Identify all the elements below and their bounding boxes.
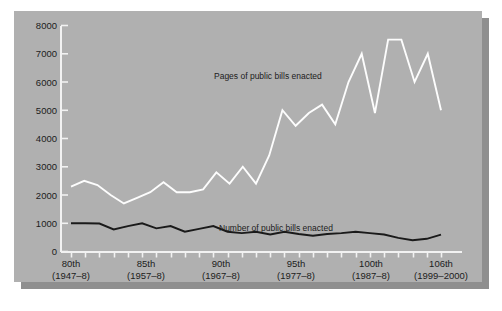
y-tick-label: 5000 [36,105,57,116]
x-tick-label-congress: 100th [359,258,383,269]
y-tick-label: 7000 [36,48,57,59]
line-chart-plot: 0 1000 2000 3000 4000 5000 6000 7000 800… [14,11,482,282]
x-axis-labels: 80th (1947–8) 85th (1957–8) 90th (1967–8… [52,258,468,281]
y-tick-label: 8000 [36,20,57,31]
y-axis-ticks [61,26,68,252]
y-tick-label: 1000 [36,218,57,229]
x-tick-label-years: (1987–8) [352,270,390,281]
series-line-pages [71,40,441,204]
annotation-pages-label: Pages of public bills enacted [214,71,322,81]
x-tick-label-years: (1977–8) [277,270,315,281]
y-tick-label: 2000 [36,190,57,201]
y-tick-label: 4000 [36,133,57,144]
x-tick-label-years: (1947–8) [52,270,90,281]
y-tick-label: 3000 [36,161,57,172]
x-tick-label-congress: 95th [287,258,306,269]
y-tick-label: 6000 [36,77,57,88]
x-tick-label-years: (1999–2000) [414,270,468,281]
x-tick-label-years: (1957–8) [127,270,165,281]
x-tick-label-congress: 106th [429,258,453,269]
chart-panel: 0 1000 2000 3000 4000 5000 6000 7000 800… [14,11,482,282]
x-tick-label-years: (1967–8) [202,270,240,281]
chart-figure: 0 1000 2000 3000 4000 5000 6000 7000 800… [0,0,502,311]
annotation-number-label: Number of public bills enacted [219,223,333,233]
y-axis-labels: 0 1000 2000 3000 4000 5000 6000 7000 800… [36,20,57,257]
x-tick-label-congress: 90th [212,258,231,269]
x-tick-label-congress: 80th [62,258,81,269]
y-tick-label: 0 [52,246,57,257]
x-tick-label-congress: 85th [137,258,156,269]
